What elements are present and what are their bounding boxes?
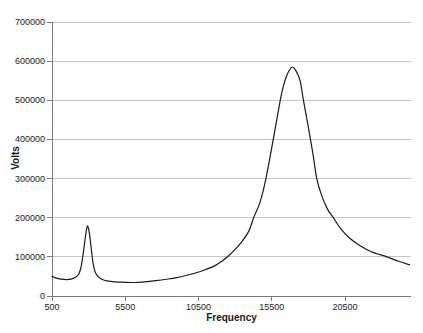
y-tick-label: 500000 — [15, 95, 45, 105]
y-tick-label: 700000 — [15, 17, 45, 27]
y-tick-label: 200000 — [15, 213, 45, 223]
series-line — [52, 67, 410, 282]
x-tick-label: 500 — [44, 302, 59, 312]
y-axis-title: Volts — [10, 146, 21, 170]
volts-frequency-chart: 0100000200000300000400000500000600000700… — [0, 0, 423, 333]
y-tick-label: 100000 — [15, 252, 45, 262]
y-tick-label: 600000 — [15, 56, 45, 66]
y-tick-label: 0 — [40, 291, 45, 301]
x-axis-title: Frequency — [52, 312, 411, 323]
y-tick-label: 400000 — [15, 134, 45, 144]
x-tick-label: 20500 — [333, 302, 358, 312]
plot-area: 0100000200000300000400000500000600000700… — [0, 0, 423, 333]
x-tick-label: 5500 — [115, 302, 135, 312]
y-tick-label: 300000 — [15, 174, 45, 184]
x-tick-label: 15500 — [259, 302, 284, 312]
x-tick-label: 10500 — [186, 302, 211, 312]
